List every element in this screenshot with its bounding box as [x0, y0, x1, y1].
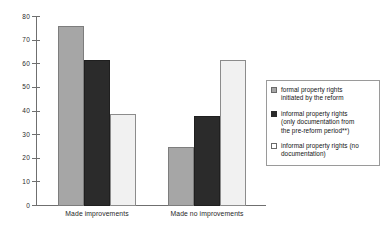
chart-legend: formal property rights initiated by the … — [266, 80, 380, 166]
bar[interactable] — [194, 116, 220, 206]
y-axis-tick-label: 30 — [4, 131, 30, 138]
legend-line-3: the pre-reform period**) — [281, 127, 349, 134]
bar-group — [58, 17, 136, 206]
bar[interactable] — [84, 60, 110, 206]
y-axis-tick-label-wrap: 30 — [0, 131, 30, 138]
legend-line-2: initiated by the reform — [281, 94, 344, 101]
bar-group — [168, 17, 246, 206]
y-axis-tick-label-wrap: 60 — [0, 60, 30, 67]
x-axis-category-label: Made improvements — [37, 210, 157, 218]
legend-line-1: formal property rights — [281, 86, 342, 93]
legend-item-informal-with-documentation[interactable]: informal property rights (only documenta… — [271, 110, 375, 135]
white-swatch-icon — [271, 143, 277, 149]
y-axis-tick-label-wrap: 20 — [0, 154, 30, 161]
y-axis-tick-label-wrap: 0 — [0, 202, 30, 209]
y-axis-tick-label-wrap: 40 — [0, 107, 30, 114]
y-axis-tick-label: 70 — [4, 36, 30, 43]
legend-line-1: informal property rights — [281, 110, 348, 117]
y-axis-tick-label: 40 — [4, 107, 30, 114]
y-axis-tick-label: 60 — [4, 60, 30, 67]
y-axis-tick-label: 20 — [4, 154, 30, 161]
y-axis-tick-label-wrap: 50 — [0, 83, 30, 90]
y-axis-tick-label-wrap: 70 — [0, 36, 30, 43]
y-axis-tick-label: 0 — [4, 202, 30, 209]
legend-line-2: documentation) — [281, 150, 326, 157]
legend-line-1: informal property rights (no — [281, 142, 359, 149]
legend-line-2: (only documentation from — [281, 118, 354, 125]
legend-item-label: formal property rights initiated by the … — [281, 86, 344, 103]
legend-item-formal-property-rights[interactable]: formal property rights initiated by the … — [271, 86, 375, 103]
legend-item-label: informal property rights (only documenta… — [281, 110, 354, 135]
legend-item-label: informal property rights (no documentati… — [281, 142, 359, 159]
y-axis-tick-label-wrap: 80 — [0, 13, 30, 20]
y-axis-tick-label: 50 — [4, 83, 30, 90]
black-swatch-icon — [271, 111, 277, 117]
gray-swatch-icon — [271, 87, 277, 93]
y-axis-tick-label: 80 — [4, 13, 30, 20]
bar[interactable] — [220, 60, 246, 206]
plot-area — [36, 16, 250, 206]
legend-item-informal-no-documentation[interactable]: informal property rights (no documentati… — [271, 142, 375, 159]
y-axis-tick-label-wrap: 10 — [0, 178, 30, 185]
x-axis-category-label: Made no improvements — [147, 210, 267, 218]
bar[interactable] — [110, 114, 136, 206]
bar-chart: 80706050403020100 Made improvementsMade … — [0, 0, 388, 236]
bar[interactable] — [58, 26, 84, 206]
bar[interactable] — [168, 147, 194, 206]
y-axis-tick-label: 10 — [4, 178, 30, 185]
